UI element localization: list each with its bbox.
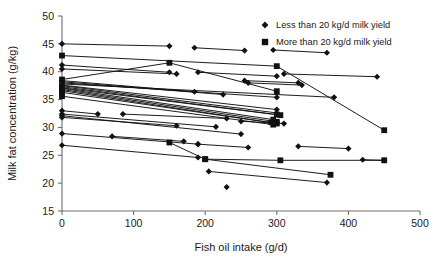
data-point-diamond xyxy=(120,111,126,117)
data-series xyxy=(191,45,247,54)
data-point-square xyxy=(277,157,283,163)
series-line xyxy=(198,144,248,147)
legend-label: More than 20 kg/d milk yield xyxy=(276,37,392,47)
data-series xyxy=(59,41,173,49)
data-series xyxy=(59,142,201,160)
data-point-diamond xyxy=(191,45,197,51)
data-point-diamond xyxy=(270,47,276,53)
data-point-diamond xyxy=(109,133,115,139)
series-line xyxy=(245,81,299,83)
data-series xyxy=(59,114,180,129)
x-tick-label: 200 xyxy=(196,217,214,229)
series-line xyxy=(169,142,384,160)
x-tick-label: 300 xyxy=(268,217,286,229)
series-line xyxy=(62,145,198,157)
y-tick-label: 20 xyxy=(42,177,54,189)
data-point-square xyxy=(59,53,65,59)
chart-legend: Less than 20 kg/d milk yieldMore than 20… xyxy=(262,20,392,47)
legend-marker-square xyxy=(262,39,268,45)
chart-container: 15202530354045500100200300400500 Fish oi… xyxy=(0,0,439,278)
series-line xyxy=(273,50,327,53)
data-series xyxy=(295,143,351,151)
data-point-square xyxy=(167,140,173,146)
series-line xyxy=(194,48,244,51)
series-line xyxy=(198,72,277,76)
data-point-diamond xyxy=(295,143,301,149)
series-line xyxy=(284,74,377,77)
series-group xyxy=(59,41,387,190)
data-point-square xyxy=(202,156,208,162)
x-tick-label: 0 xyxy=(59,217,65,229)
series-line xyxy=(209,171,327,182)
data-point-diamond xyxy=(59,142,65,148)
y-axis-title: Milk fat concentration (g/kg) xyxy=(6,46,18,181)
legend-marker-diamond xyxy=(262,22,269,29)
data-point-diamond xyxy=(238,131,244,137)
data-series xyxy=(195,69,280,79)
data-point-square xyxy=(381,127,387,133)
data-point-diamond xyxy=(166,69,172,75)
y-tick-label: 50 xyxy=(42,10,54,22)
x-tick-label: 400 xyxy=(340,217,358,229)
data-point-square xyxy=(274,63,280,69)
series-line xyxy=(363,160,384,161)
data-point-diamond xyxy=(245,144,251,150)
data-point-diamond xyxy=(324,179,330,185)
series-line xyxy=(62,44,169,46)
data-point-diamond xyxy=(206,168,212,174)
data-point-diamond xyxy=(241,47,247,53)
series-line xyxy=(248,83,302,85)
y-tick-label: 30 xyxy=(42,121,54,133)
data-point-diamond xyxy=(374,74,380,80)
data-point-diamond xyxy=(59,66,65,72)
data-point-diamond xyxy=(360,157,366,163)
data-point-diamond xyxy=(213,124,219,130)
data-point-diamond xyxy=(238,118,244,124)
legend-label: Less than 20 kg/d milk yield xyxy=(276,20,390,30)
y-tick-label: 25 xyxy=(42,149,54,161)
series-line xyxy=(298,146,348,148)
data-point-square xyxy=(59,93,65,99)
x-tick-label: 100 xyxy=(125,217,143,229)
x-axis-title: Fish oil intake (g/d) xyxy=(195,241,288,253)
scatter-plot: 15202530354045500100200300400500 Fish oi… xyxy=(0,0,439,278)
data-point-square xyxy=(328,172,334,178)
data-series xyxy=(59,130,201,147)
data-point-square xyxy=(167,60,173,66)
data-point-diamond xyxy=(95,111,101,117)
series-line xyxy=(62,114,216,127)
data-point-diamond xyxy=(59,130,65,136)
series-line xyxy=(62,116,241,134)
y-tick-label: 45 xyxy=(42,38,54,50)
data-series xyxy=(281,71,380,80)
data-point-diamond xyxy=(59,41,65,47)
data-point-square xyxy=(277,112,283,118)
data-series xyxy=(270,47,330,56)
data-point-diamond xyxy=(274,94,280,100)
data-point-diamond xyxy=(324,50,330,56)
x-tick-label: 500 xyxy=(411,217,429,229)
data-point-diamond xyxy=(224,184,230,190)
data-series xyxy=(224,184,230,190)
series-line xyxy=(62,134,198,145)
y-tick-label: 40 xyxy=(42,65,54,77)
data-point-diamond xyxy=(166,43,172,49)
data-series xyxy=(206,168,330,185)
data-point-diamond xyxy=(274,73,280,79)
data-point-diamond xyxy=(195,141,201,147)
data-point-diamond xyxy=(345,146,351,152)
data-point-diamond xyxy=(281,120,287,126)
data-point-diamond xyxy=(173,71,179,77)
data-point-square xyxy=(274,88,280,94)
series-line xyxy=(62,111,98,114)
y-tick-label: 35 xyxy=(42,93,54,105)
data-series xyxy=(195,141,251,151)
y-tick-label: 15 xyxy=(42,205,54,217)
